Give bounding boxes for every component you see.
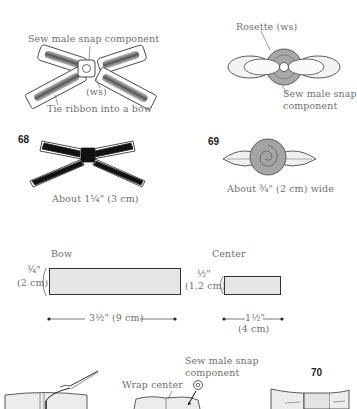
pattern-center-width-cm: (4 cm)	[238, 324, 269, 335]
figure-69-caption: About ¾" (2 cm) wide	[227, 184, 334, 195]
label-sew-male-snap-right-2: component	[283, 101, 337, 112]
pattern-bow-title: Bow	[51, 249, 72, 260]
label-ws: (ws)	[86, 87, 107, 98]
pattern-bow-width: 3½" (9 cm)	[89, 313, 143, 324]
label-rosette-ws: Rosette (ws)	[236, 22, 297, 33]
label-sew-male-snap-right-1: Sew male snap	[283, 89, 357, 100]
pattern-center-title: Center	[212, 249, 246, 260]
black-bow-illustration	[0, 125, 175, 195]
label-tie-ribbon: Tie ribbon into a bow	[47, 104, 152, 115]
bottom-steps-illustration	[0, 355, 349, 409]
figure-68-caption: About 1¼" (3 cm)	[52, 194, 139, 205]
